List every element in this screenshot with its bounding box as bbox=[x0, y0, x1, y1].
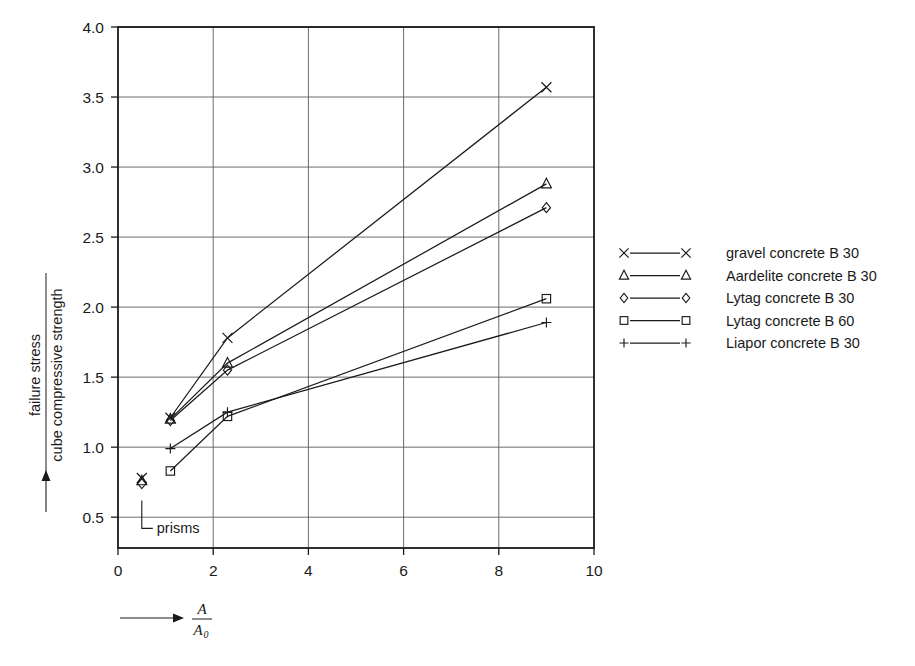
legend-label: Liapor concrete B 30 bbox=[726, 335, 860, 351]
x-label-denominator-subscript: 0 bbox=[204, 629, 209, 640]
y-tick-label: 2.5 bbox=[82, 229, 104, 246]
y-tick-label: 0.5 bbox=[82, 509, 104, 526]
y-tick-label: 3.0 bbox=[82, 159, 104, 176]
chart-figure: 0.51.01.52.02.53.03.54.0 0246810 prisms … bbox=[0, 0, 915, 666]
x-tick-label: 0 bbox=[114, 562, 123, 579]
y-tick-label: 2.0 bbox=[82, 299, 104, 316]
x-label-numerator: A bbox=[196, 601, 207, 617]
y-tick-label: 1.5 bbox=[82, 369, 104, 386]
y-label-numerator: failure stress bbox=[27, 334, 43, 416]
y-label-denominator: cube compressive strength bbox=[49, 288, 65, 461]
x-tick-label: 4 bbox=[304, 562, 313, 579]
x-tick-label: 10 bbox=[585, 562, 603, 579]
y-tick-label: 1.0 bbox=[82, 439, 104, 456]
y-tick-label: 4.0 bbox=[82, 19, 104, 36]
x-tick-label: 2 bbox=[209, 562, 218, 579]
x-tick-label: 6 bbox=[399, 562, 408, 579]
legend-label: Aardelite concrete B 30 bbox=[726, 268, 877, 284]
chart-background bbox=[0, 0, 915, 666]
prisms-annotation-label: prisms bbox=[157, 520, 200, 536]
x-tick-label: 8 bbox=[494, 562, 503, 579]
line-chart: 0.51.01.52.02.53.03.54.0 0246810 prisms … bbox=[0, 0, 915, 666]
x-label-denominator-base: A bbox=[192, 622, 203, 638]
y-tick-label: 3.5 bbox=[82, 89, 104, 106]
legend-label: Lytag concrete B 30 bbox=[726, 290, 854, 306]
legend-label: gravel concrete B 30 bbox=[726, 245, 859, 261]
legend-label: Lytag concrete B 60 bbox=[726, 313, 854, 329]
